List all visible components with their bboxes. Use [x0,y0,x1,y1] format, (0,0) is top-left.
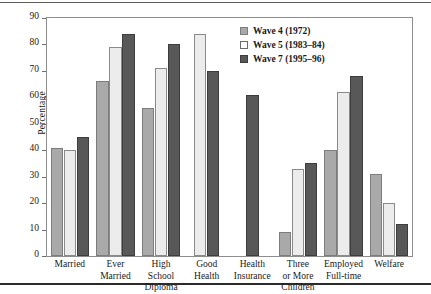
bar-w7 [396,224,409,256]
y-tick-label: 0 [34,249,39,259]
y-tick-label: 20 [30,196,40,206]
x-axis-label-line: Welfare [358,259,420,271]
y-tick-label: 10 [30,223,40,233]
legend-swatch-w4 [240,27,248,35]
legend-label: Wave 5 (1983–84) [253,40,325,50]
legend-item: Wave 7 (1995–96) [240,52,360,65]
y-tick-label: 70 [30,64,40,74]
y-tick-label: 40 [30,143,40,153]
x-axis-labels: MarriedEverMarriedHighSchoolDiplomaGoodH… [47,259,412,293]
bar-w7 [77,137,90,256]
bar-w4 [96,81,109,256]
legend-swatch-w7 [240,55,248,63]
bar-w5 [109,47,122,256]
bar-w7 [246,95,259,256]
bar-w7 [122,34,135,256]
bar-w4 [370,174,383,256]
bar-group [93,18,139,256]
y-tick-label: 60 [30,90,40,100]
top-rule [0,2,431,3]
y-tick-label: 50 [30,117,40,127]
x-axis-label-line: Full-time [313,271,375,283]
bar-w5 [155,68,168,256]
legend-label: Wave 7 (1995–96) [253,54,325,64]
bar-w7 [207,71,220,256]
bar-w7 [305,163,318,256]
bar-w5 [383,203,396,256]
bar-w5 [64,150,77,256]
bar-w4 [324,150,337,256]
legend: Wave 4 (1972)Wave 5 (1983–84)Wave 7 (199… [240,24,360,66]
bar-group [184,18,230,256]
legend-label: Wave 4 (1972) [253,26,311,36]
bar-group [366,18,412,256]
bar-w4 [51,148,64,256]
bar-w5 [337,92,350,256]
x-axis-label-line: Diploma [130,282,192,294]
legend-item: Wave 4 (1972) [240,24,360,37]
bar-w5 [194,34,207,256]
y-tick-label: 90 [30,11,40,21]
legend-swatch-w5 [240,41,248,49]
bar-w7 [168,44,181,256]
bar-chart-figure: Percentage 0102030405060708090 MarriedEv… [0,0,431,294]
bar-group [47,18,93,256]
bar-w5 [292,169,305,256]
y-tick-label: 30 [30,170,40,180]
bar-w4 [142,108,155,256]
bar-group [138,18,184,256]
x-axis-label-line: Children [267,282,329,294]
x-axis-label: Welfare [358,259,420,271]
bar-w7 [350,76,363,256]
y-tick-label: 80 [30,37,40,47]
legend-item: Wave 5 (1983–84) [240,38,360,51]
bar-w4 [279,232,292,256]
